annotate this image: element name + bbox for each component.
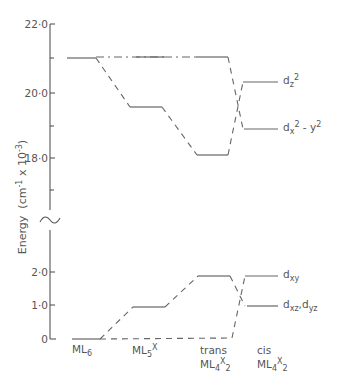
- column-label-trans: trans ML4X2: [200, 344, 231, 374]
- column-label-cis: cis ML4X2: [257, 344, 288, 374]
- orbital-label-dxy: dxy: [283, 269, 299, 283]
- diagram-lines: [0, 0, 343, 384]
- orbital-label-dxzdyz: dxz,dyz: [283, 299, 318, 313]
- connector-ml5x-trans-dxz: [165, 276, 198, 307]
- y-label-sup1: -1: [15, 180, 24, 188]
- connector-ml6-ml5x-dz2: [96, 58, 130, 107]
- connector-ml5x-trans-dz2: [162, 107, 197, 155]
- axis-break-icon: [40, 217, 60, 223]
- y-label-end: ): [16, 140, 29, 144]
- column-label-ml6: ML6: [72, 344, 92, 358]
- column-label-ml5x: ML5X: [132, 344, 158, 359]
- y-label-energy: Energy: [16, 216, 29, 255]
- y-label-unit: (cm: [16, 188, 29, 209]
- connector-ml6-ml5x-dxz: [100, 307, 133, 339]
- tick-label-1: 1·0: [14, 300, 48, 311]
- connector-trans-cis-dxy: [232, 276, 245, 338]
- energy-level-diagram: 22·0 20·0 18·0 2·0 1·0 0 Energy (cm-1 x …: [0, 0, 343, 384]
- tick-label-22: 22·0: [14, 19, 48, 30]
- orbital-label-dz2: dz2: [283, 74, 299, 89]
- connector-dxy-baseline: [100, 338, 232, 339]
- orbital-label-dx2y2: dx2 - y2: [283, 121, 321, 136]
- tick-label-0: 0: [14, 334, 48, 345]
- tick-label-20: 20·0: [14, 88, 48, 99]
- y-axis-label: Energy (cm-1 x 10-3): [15, 137, 29, 257]
- tick-label-2: 2·0: [14, 267, 48, 278]
- connector-trans-cis-dxz: [230, 276, 245, 306]
- y-label-mid: x 10: [16, 152, 29, 180]
- y-label-sup2: -3: [15, 144, 24, 152]
